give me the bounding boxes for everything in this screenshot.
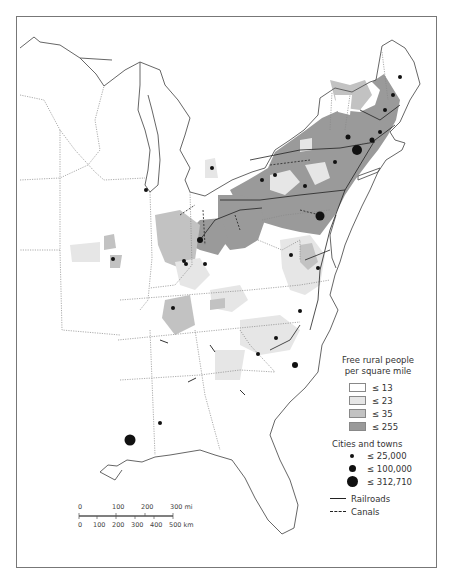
scale-mi-tick: 100	[112, 503, 124, 511]
swatch-class-3	[349, 409, 366, 418]
scale-bar: 0 100 200 300 mi 0 100 200 300 400 500 k…	[78, 503, 248, 533]
scale-bar-graphic	[78, 512, 188, 520]
swatch-class-4	[349, 422, 366, 431]
scale-km-tick: 300	[131, 521, 143, 529]
scale-mi-tick: 200	[141, 503, 153, 511]
swatch-class-1	[349, 383, 366, 392]
legend-city-class: ≤ 25,000	[328, 449, 438, 462]
density-label: ≤ 13	[372, 383, 393, 393]
density-label: ≤ 35	[372, 409, 393, 419]
density-label: ≤ 23	[372, 396, 393, 406]
scale-mi-tick: 0	[78, 503, 82, 511]
legend-city-class: ≤ 100,000	[328, 462, 438, 475]
city-dot-small-icon	[350, 454, 354, 458]
swatch-class-2	[349, 396, 366, 405]
legend-density-class: ≤ 255	[328, 420, 438, 433]
canal-line-icon	[330, 511, 346, 512]
legend-cities-title: Cities and towns	[332, 439, 438, 449]
legend-canals: Canals	[330, 505, 438, 518]
density-label: ≤ 255	[372, 422, 398, 432]
scale-mi-tick: 300 mi	[170, 503, 193, 511]
city-label: ≤ 312,710	[367, 477, 412, 487]
scale-km-tick: 100	[93, 521, 105, 529]
railroad-line-icon	[330, 498, 346, 499]
scale-km-tick: 500 km	[169, 521, 194, 529]
city-label: ≤ 25,000	[367, 451, 407, 461]
scale-km-tick: 400	[150, 521, 162, 529]
city-dot-large-icon	[347, 476, 358, 487]
legend-title-line1: Free rural people	[328, 355, 428, 366]
legend-density-title: Free rural people per square mile	[328, 355, 428, 377]
city-dot-medium-icon	[349, 465, 356, 472]
legend-railroads: Railroads	[330, 492, 438, 505]
legend-density-class: ≤ 13	[328, 381, 438, 394]
scale-km-tick: 200	[112, 521, 124, 529]
canals-label: Canals	[351, 507, 380, 517]
scale-km-tick: 0	[78, 521, 82, 529]
legend-title-line2: per square mile	[328, 366, 428, 377]
legend: Free rural people per square mile ≤ 13 ≤…	[328, 355, 438, 518]
legend-city-class: ≤ 312,710	[328, 475, 438, 488]
railroads-label: Railroads	[351, 494, 390, 504]
legend-density-class: ≤ 23	[328, 394, 438, 407]
legend-density-class: ≤ 35	[328, 407, 438, 420]
city-label: ≤ 100,000	[367, 464, 412, 474]
